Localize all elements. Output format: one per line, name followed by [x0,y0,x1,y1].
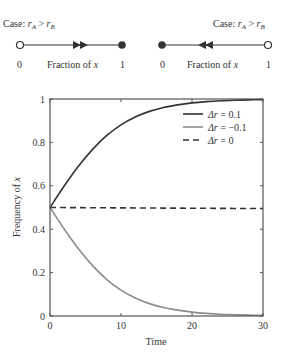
x-tick-label: 0 [48,320,53,331]
tick-0: 0 [160,59,165,70]
arrow-left-icon [205,41,213,49]
x-axis-label: Time [146,336,167,347]
y-tick-label: 0.2 [33,267,46,278]
x-tick-label: 10 [116,320,126,331]
case-label-right: Case: rA > rB [213,18,265,31]
y-tick-label: 0.8 [33,137,46,148]
stable-equilibrium-filled-circle [118,41,126,49]
line-chart: 010203000.20.40.60.81 Time Frequency of … [11,94,268,348]
y-tick-label: 0 [40,311,45,322]
phase-diagram-right: Case: rA > rB 0 Fraction of x 1 [158,18,271,70]
arrow-right-icon [73,41,81,49]
tick-1: 1 [266,59,271,70]
y-axis-label: Frequency of x [11,176,22,237]
legend: Δr = 0.1Δr = −0.1Δr = 0 [183,109,247,146]
legend-label: Δr = −0.1 [207,122,247,133]
unstable-equilibrium-open-circle [265,42,272,49]
axis-label: Fraction of x [47,59,99,70]
x-tick-label: 30 [258,320,268,331]
axis-label: Fraction of x [187,59,239,70]
series-line-1 [50,208,263,316]
phase-diagram-left: Case: rA > rB 0 Fraction of x 1 [3,18,126,70]
unstable-equilibrium-open-circle [17,42,24,49]
arrow-left-icon [198,41,206,49]
series-line-2 [50,208,263,209]
y-tick-label: 0.4 [33,224,46,235]
legend-label: Δr = 0.1 [207,109,241,120]
y-tick-label: 1 [40,94,45,105]
stable-equilibrium-filled-circle [158,41,166,49]
legend-label: Δr = 0 [207,135,233,146]
case-label-left: Case: rA > rB [3,18,55,31]
y-tick-label: 0.6 [33,180,46,191]
x-tick-label: 20 [187,320,197,331]
arrow-right-icon [80,41,88,49]
tick-1: 1 [120,59,125,70]
figure: Case: rA > rB 0 Fraction of x 1 Case: rA… [0,0,290,360]
tick-0: 0 [17,59,22,70]
